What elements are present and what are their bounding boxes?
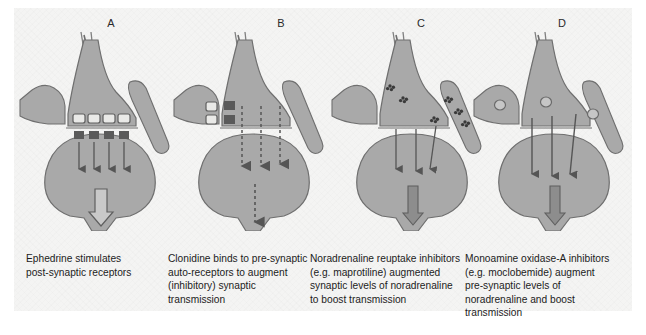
figure-root: A B C D bbox=[0, 0, 646, 335]
synapse-diagram-b bbox=[172, 26, 334, 231]
caption-c-line-4: to boost transmission bbox=[310, 293, 476, 307]
glial-process-left-c bbox=[332, 85, 377, 124]
caption-d-line-3: pre-synaptic levels of bbox=[465, 279, 633, 293]
caption-d-line-2: (e.g. moclobemide) augment bbox=[465, 266, 633, 280]
synapse-diagram-c bbox=[330, 26, 492, 231]
caption-d-line-4: noradrenaline and boost bbox=[465, 293, 633, 307]
postsynaptic-neuron-b bbox=[199, 134, 310, 231]
caption-b-line-3: (inhibitory) synaptic bbox=[168, 279, 330, 293]
presynaptic-terminal-d bbox=[522, 40, 590, 126]
caption-c-line-1: Noradrenaline reuptake inhibitors bbox=[310, 252, 476, 266]
synapse-diagram-a bbox=[18, 26, 180, 231]
glial-process-left-a bbox=[20, 85, 65, 124]
synapse-diagram-d bbox=[472, 26, 634, 231]
caption-a-line-2: post-synaptic receptors bbox=[26, 266, 178, 280]
caption-c-line-3: synaptic levels of noradrenaline bbox=[310, 279, 476, 293]
caption-d: Monoamine oxidase-A inhibitors (e.g. moc… bbox=[465, 252, 633, 320]
caption-c-line-2: (e.g. maprotiline) augmented bbox=[310, 266, 476, 280]
caption-a: Ephedrine stimulates post-synaptic recep… bbox=[26, 252, 178, 279]
presynaptic-terminal-a bbox=[68, 40, 136, 126]
caption-d-line-5: transmission bbox=[465, 306, 633, 320]
caption-c: Noradrenaline reuptake inhibitors (e.g. … bbox=[310, 252, 476, 306]
caption-a-line-1: Ephedrine stimulates bbox=[26, 252, 178, 266]
caption-b: Clonidine binds to pre-synaptic auto-rec… bbox=[168, 252, 330, 306]
caption-b-line-2: auto-receptors to augment bbox=[168, 266, 330, 280]
caption-d-line-1: Monoamine oxidase-A inhibitors bbox=[465, 252, 633, 266]
caption-b-line-1: Clonidine binds to pre-synaptic bbox=[168, 252, 330, 266]
caption-b-line-4: transmission bbox=[168, 293, 330, 307]
presynaptic-terminal-c bbox=[380, 40, 448, 126]
